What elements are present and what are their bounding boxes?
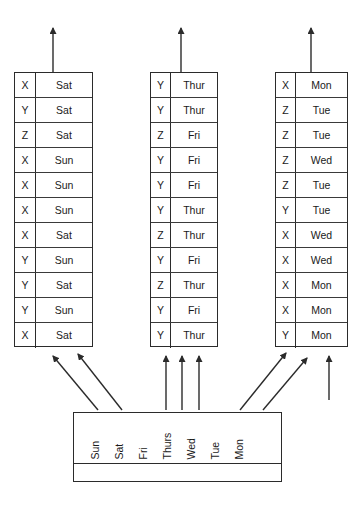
cell-key: Y — [151, 323, 171, 348]
table-row: Y Fri — [151, 298, 217, 323]
cell-key: X — [15, 173, 36, 197]
cell-key: Z — [276, 148, 296, 172]
table-row: X Mon — [276, 73, 347, 98]
cell-day: Sat — [36, 98, 92, 122]
cell-key: Y — [151, 73, 171, 97]
table-row: Z Tue — [276, 123, 347, 148]
cell-day: Mon — [296, 298, 347, 322]
cell-key: Y — [151, 298, 171, 322]
table-row: Y Mon — [276, 323, 347, 348]
cell-key: Y — [15, 298, 36, 322]
cell-day: Mon — [296, 323, 347, 348]
table-row: Y Thur — [151, 73, 217, 98]
cell-key: Y — [151, 148, 171, 172]
source-bucket-strip — [74, 464, 281, 481]
table-row: Y Fri — [151, 248, 217, 273]
cell-key: Y — [276, 198, 296, 222]
cell-key: Y — [15, 248, 36, 272]
cell-key: X — [15, 223, 36, 247]
bucket-label-sat: Sat — [114, 443, 125, 459]
cell-day: Sat — [36, 273, 92, 297]
table-row: X Sun — [15, 173, 92, 198]
cell-day: Sun — [36, 148, 92, 172]
bucket-label-tue: Tue — [210, 441, 221, 459]
cell-day: Wed — [296, 223, 347, 247]
cell-day: Tue — [296, 123, 347, 147]
cell-key: Y — [15, 98, 36, 122]
table-middle: Y Thur Y Thur Z Fri Y Fri Y Fri Y Thur Z… — [150, 72, 218, 347]
cell-key: Y — [151, 173, 171, 197]
cell-day: Wed — [296, 148, 347, 172]
bucket-label-fri: Fri — [138, 447, 149, 459]
feed-arrow-mon — [263, 358, 307, 410]
table-row: Z Tue — [276, 173, 347, 198]
table-left: X Sat Y Sat Z Sat X Sun X Sun X Sun X Sa… — [14, 72, 93, 347]
cell-key: X — [15, 323, 36, 348]
cell-key: Z — [151, 273, 171, 297]
cell-day: Sun — [36, 198, 92, 222]
cell-day: Mon — [296, 273, 347, 297]
cell-key: Z — [151, 123, 171, 147]
table-row: X Sun — [15, 198, 92, 223]
cell-day: Mon — [296, 73, 347, 97]
source-bucket-labels: Sun Sat Fri Thurs Wed Tue Mon — [74, 413, 281, 464]
cell-key: X — [276, 73, 296, 97]
feed-arrow-tue — [240, 353, 286, 410]
cell-key: Y — [276, 323, 296, 348]
table-row: Z Sat — [15, 123, 92, 148]
cell-key: Y — [151, 248, 171, 272]
table-row: X Mon — [276, 298, 347, 323]
cell-day: Sat — [36, 123, 92, 147]
cell-day: Sat — [36, 323, 92, 348]
table-row: Y Sat — [15, 273, 92, 298]
feed-arrow-sat — [78, 354, 122, 410]
feed-arrow-sun — [53, 356, 98, 410]
cell-key: Z — [276, 123, 296, 147]
cell-key: X — [276, 273, 296, 297]
cell-day: Thur — [171, 223, 217, 247]
table-row: X Sat — [15, 223, 92, 248]
table-row: X Wed — [276, 223, 347, 248]
cell-day: Sun — [36, 298, 92, 322]
cell-day: Sat — [36, 223, 92, 247]
table-row: Y Thur — [151, 198, 217, 223]
table-row: Y Sat — [15, 98, 92, 123]
bucket-label-sun: Sun — [90, 440, 101, 459]
table-row: Y Tue — [276, 198, 347, 223]
table-row: Y Fri — [151, 148, 217, 173]
diagram-canvas: X Sat Y Sat Z Sat X Sun X Sun X Sun X Sa… — [0, 0, 364, 507]
cell-day: Sun — [36, 248, 92, 272]
cell-day: Tue — [296, 98, 347, 122]
table-row: X Sat — [15, 73, 92, 98]
cell-key: Y — [15, 273, 36, 297]
table-row: Z Tue — [276, 98, 347, 123]
cell-day: Fri — [171, 298, 217, 322]
cell-day: Thur — [171, 323, 217, 348]
cell-day: Fri — [171, 173, 217, 197]
cell-key: X — [15, 148, 36, 172]
table-row: X Mon — [276, 273, 347, 298]
cell-day: Fri — [171, 148, 217, 172]
cell-key: X — [15, 198, 36, 222]
table-row: X Sat — [15, 323, 92, 348]
bucket-label-wed: Wed — [186, 438, 197, 459]
table-row: Y Thur — [151, 98, 217, 123]
source-bucket-box: Sun Sat Fri Thurs Wed Tue Mon — [73, 412, 282, 482]
cell-day: Wed — [296, 248, 347, 272]
cell-day: Sun — [36, 173, 92, 197]
cell-day: Fri — [171, 248, 217, 272]
cell-day: Thur — [171, 73, 217, 97]
table-row: Z Thur — [151, 223, 217, 248]
table-row: Z Thur — [151, 273, 217, 298]
cell-day: Thur — [171, 198, 217, 222]
cell-key: X — [276, 223, 296, 247]
table-row: Y Fri — [151, 173, 217, 198]
cell-day: Thur — [171, 273, 217, 297]
cell-day: Fri — [171, 123, 217, 147]
table-row: Y Sun — [15, 298, 92, 323]
cell-key: X — [276, 298, 296, 322]
table-row: Z Fri — [151, 123, 217, 148]
table-row: Y Thur — [151, 323, 217, 348]
cell-key: X — [15, 73, 36, 97]
bucket-label-mon: Mon — [234, 439, 245, 459]
